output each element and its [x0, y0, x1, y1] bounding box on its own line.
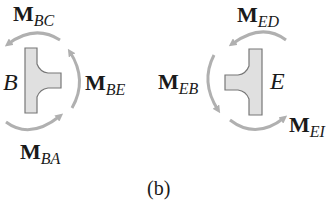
moment-ed-arrow — [232, 32, 286, 44]
label-joint-b: B — [3, 70, 18, 94]
diagram-canvas — [0, 0, 326, 203]
label-m-be: MBE — [85, 72, 125, 94]
label-m-ed: MED — [237, 4, 279, 26]
moment-ba-arrow — [6, 116, 60, 130]
joint-b-shape — [25, 48, 61, 113]
joint-e-shape — [225, 49, 262, 115]
label-m-ba: MBA — [20, 141, 60, 163]
moment-ef-arrow — [230, 118, 284, 130]
figure-caption: (b) — [147, 178, 170, 198]
label-joint-e: E — [270, 69, 285, 93]
label-m-eb: MEB — [158, 71, 198, 93]
label-m-ef: MEI — [289, 114, 325, 136]
label-m-bc: MBC — [13, 3, 54, 25]
moment-bc-arrow — [8, 33, 60, 44]
moment-eb-arrow — [208, 55, 218, 110]
moment-be-arrow — [70, 52, 80, 108]
